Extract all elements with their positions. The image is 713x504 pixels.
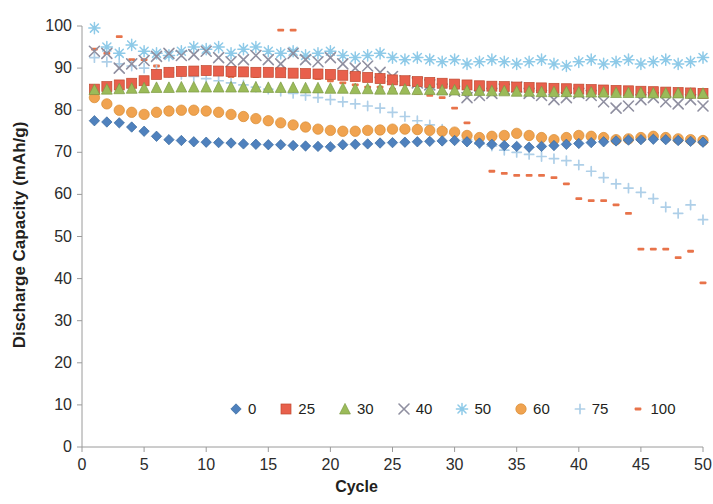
data-point-triangle xyxy=(313,82,324,93)
data-point-plus xyxy=(375,103,384,112)
data-point-circle xyxy=(114,105,124,115)
data-point-asterisk xyxy=(561,60,572,71)
data-point-circle xyxy=(516,403,526,413)
data-point-circle xyxy=(412,124,422,134)
data-point-circle xyxy=(263,116,273,126)
data-point-diamond xyxy=(164,134,174,144)
data-point-diamond xyxy=(300,141,310,151)
data-point-square xyxy=(226,66,236,76)
data-point-circle xyxy=(276,118,286,128)
data-point-diamond xyxy=(201,137,211,147)
data-point-asterisk xyxy=(288,46,299,57)
data-point-diamond xyxy=(276,140,286,150)
data-point-diamond xyxy=(362,139,372,149)
data-point-triangle xyxy=(375,84,386,95)
data-point-dash xyxy=(575,197,582,200)
legend-label: 40 xyxy=(416,400,433,417)
legend-item-100[interactable]: 100 xyxy=(630,400,675,417)
data-point-asterisk xyxy=(374,48,385,59)
data-point-square xyxy=(313,69,323,79)
data-point-diamond xyxy=(375,138,385,148)
data-point-circle xyxy=(238,111,248,121)
data-point-dash xyxy=(526,174,533,177)
data-point-diamond xyxy=(387,137,397,147)
series-50 xyxy=(89,23,709,72)
legend-marker-x-icon xyxy=(396,401,412,417)
data-point-dash xyxy=(635,407,642,410)
data-point-diamond xyxy=(412,137,422,147)
data-point-circle xyxy=(313,124,323,134)
data-point-diamond xyxy=(313,141,323,151)
data-point-dash xyxy=(588,199,595,202)
data-point-triangle xyxy=(164,82,175,93)
data-point-asterisk xyxy=(586,54,597,65)
data-point-diamond xyxy=(89,116,99,126)
data-point-diamond xyxy=(524,142,534,152)
data-point-asterisk xyxy=(486,54,497,65)
data-point-circle xyxy=(338,126,348,136)
legend-label: 0 xyxy=(248,400,256,417)
data-point-asterisk xyxy=(598,58,609,69)
data-point-circle xyxy=(362,125,372,135)
data-point-asterisk xyxy=(623,54,634,65)
data-point-plus xyxy=(624,183,633,192)
data-point-asterisk xyxy=(139,46,150,57)
legend-label: 50 xyxy=(474,400,491,417)
data-point-plus xyxy=(363,101,372,110)
data-point-square xyxy=(375,74,385,84)
data-point-triangle xyxy=(188,81,199,92)
data-point-triangle xyxy=(238,81,249,92)
data-point-asterisk xyxy=(457,403,468,414)
series-0 xyxy=(89,116,708,153)
data-point-diamond xyxy=(499,140,509,150)
data-point-plus xyxy=(537,152,546,161)
data-point-asterisk xyxy=(213,41,224,52)
data-point-circle xyxy=(512,128,522,138)
data-point-dash xyxy=(464,121,471,124)
data-point-asterisk xyxy=(660,54,671,65)
data-point-x xyxy=(238,55,248,65)
legend-item-50[interactable]: 50 xyxy=(454,400,491,417)
legend-item-25[interactable]: 25 xyxy=(278,400,315,417)
data-point-plus xyxy=(698,215,707,224)
data-point-asterisk xyxy=(499,56,510,67)
legend-item-30[interactable]: 30 xyxy=(337,400,374,417)
data-point-asterisk xyxy=(89,23,100,34)
chart-legend: 0253040506075100 xyxy=(228,400,698,417)
data-point-diamond xyxy=(139,126,149,136)
data-point-asterisk xyxy=(648,56,659,67)
data-point-dash xyxy=(513,174,520,177)
data-point-dash xyxy=(501,172,508,175)
data-point-asterisk xyxy=(437,56,448,67)
data-point-dash xyxy=(551,176,558,179)
data-point-plus xyxy=(562,156,571,165)
legend-marker-square-icon xyxy=(278,401,294,417)
data-point-plus xyxy=(599,173,608,182)
data-point-diamond xyxy=(176,135,186,145)
data-point-square xyxy=(152,69,162,79)
data-point-triangle xyxy=(362,83,373,94)
data-point-circle xyxy=(437,126,447,136)
data-point-asterisk xyxy=(412,52,423,63)
data-point-asterisk xyxy=(163,50,174,61)
data-point-dash xyxy=(290,29,297,32)
data-point-circle xyxy=(251,113,261,123)
legend-label: 25 xyxy=(298,400,315,417)
data-point-plus xyxy=(649,194,658,203)
data-point-asterisk xyxy=(548,58,559,69)
data-point-circle xyxy=(102,99,112,109)
data-point-circle xyxy=(387,124,397,134)
data-point-triangle xyxy=(350,83,361,94)
legend-item-75[interactable]: 75 xyxy=(572,400,609,417)
data-point-square xyxy=(189,66,199,76)
data-point-circle xyxy=(151,107,161,117)
data-point-dash xyxy=(675,256,682,259)
legend-item-0[interactable]: 0 xyxy=(228,400,256,417)
legend-marker-dash-icon xyxy=(630,401,646,417)
data-point-square xyxy=(201,66,211,76)
legend-item-40[interactable]: 40 xyxy=(396,400,433,417)
data-point-diamond xyxy=(400,137,410,147)
data-point-asterisk xyxy=(126,39,137,50)
legend-item-60[interactable]: 60 xyxy=(513,400,550,417)
legend-label: 75 xyxy=(592,400,609,417)
